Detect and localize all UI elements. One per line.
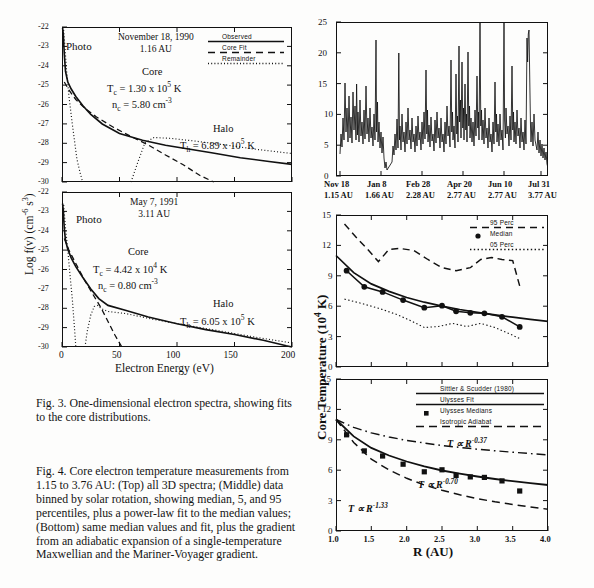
fig4-middle-ytick: 12 [322, 241, 331, 250]
fig3-top-halo-label: Halo [213, 122, 233, 135]
fig3-top-ytick: -24 [38, 62, 49, 70]
fig3-legend-label: Observed [222, 33, 252, 40]
fig3-top-core-density: nc = 5.80 cm-3 [112, 96, 172, 113]
fig4-bottom-legend-label: Ulysses Fit [440, 396, 474, 403]
fig3-top-ytick: -23 [38, 42, 49, 50]
fig3-top-panel: Log f(v) (cm-6 s3) [0, 0, 300, 200]
fig4-bottom-annotation-ulysses: T ∝ R-0.70 [418, 478, 458, 492]
fig3-legend-item: Remainder [208, 55, 288, 66]
fig4-top-ytick: 15 [318, 80, 327, 89]
fig4-middle-ytick: 15 [322, 211, 331, 220]
fig4-middle-p05-curve [345, 299, 520, 339]
fig4-middle-legend-label: Median [490, 230, 513, 237]
fig4-top-panel: 25 20 15 10 5 0 Nov 18 1.15 AU Jan 8 1.6… [300, 8, 594, 203]
fig4-top-xtick-date: Jan 8 [367, 180, 387, 189]
fig4-top-xtick-dist: 2.28 AU [406, 191, 435, 200]
fig4-top-xtick-dist: 3.77 AU [528, 191, 557, 200]
fig3-top-ytick: -27 [38, 120, 49, 128]
fig4-middle-ytick: 6 [328, 302, 333, 311]
fig4-bottom-legend: Sittler & Scudder (1980) Ulysses Fit Uly… [416, 385, 548, 429]
fig3-bottom-panel: -22 -23 -24 -25 -26 -27 -28 -29 -30 0 50… [0, 188, 300, 368]
fig3-legend-label: Remainder [222, 55, 256, 62]
fig4-middle-panel: 15 12 9 6 3 0 95 Perc Median [300, 210, 594, 370]
fig3-bottom-ytick: -25 [38, 246, 49, 254]
fig4-middle-legend-label: 95 Perc [490, 219, 514, 226]
fig3-bottom-ytick: -22 [38, 188, 49, 196]
fig3-legend-label: Core Fit [222, 44, 247, 51]
fig4-bottom-xtick: 4.0 [540, 535, 551, 544]
fig3-xtick: 50 [112, 351, 122, 361]
fig4-top-xtick-date: Feb 28 [406, 180, 430, 189]
fig3-xtick: 150 [224, 351, 238, 361]
fig4-middle-legend-item: 05 Perc [470, 241, 548, 252]
fig3-bottom-ytick: -28 [38, 304, 49, 312]
fig4-bottom-ytick: 15 [322, 375, 331, 384]
fig4-middle-median-line [347, 271, 520, 327]
fig4-bottom-ytick: 12 [322, 405, 331, 414]
fig4-middle-median-markers [344, 268, 523, 330]
fig3-top-date: November 18, 1990 [118, 32, 194, 44]
fig3-xtick: 100 [166, 351, 180, 361]
fig4-bottom-legend-item: Ulysses Fit [416, 396, 548, 407]
fig4-top-xtick-dist: 2.77 AU [447, 191, 476, 200]
fig4-bottom-ytick: 3 [328, 497, 333, 506]
fig4-middle-ytick: 3 [328, 333, 333, 342]
fig3-bottom-date-block: May 7, 1991 3.11 AU [130, 197, 178, 221]
fig4-caption: Fig. 4. Core electron temperature measur… [36, 465, 304, 562]
fig3-top-ytick: -29 [38, 159, 49, 167]
fig3-top-distance: 1.16 AU [118, 44, 194, 56]
fig4-top-timeseries [340, 22, 548, 170]
fig3-caption: Fig. 3. One-dimensional electron spectra… [36, 397, 294, 425]
fig4-bottom-ulyssesfit-curve [336, 420, 548, 486]
fig4-bottom-xtick: 3.5 [505, 535, 516, 544]
fig4-top-ytick: 20 [318, 49, 327, 58]
fig4-bottom-legend-label: Isotropic Adiabat [440, 418, 491, 425]
fig4-bottom-xtick: 3.0 [470, 535, 481, 544]
figure-page: Log f(v) (cm-6 s3) [0, 0, 594, 588]
fig4-middle-legend-label: 05 Perc [490, 241, 514, 248]
fig4-bottom-xtick: 2.5 [434, 535, 445, 544]
fig4-top-ytick: 5 [324, 141, 329, 150]
fig3-top-photo-label: Photo [66, 40, 92, 54]
fig4-top-xtick-date: Jul 31 [528, 180, 550, 189]
fig3-legend-item: Observed [208, 33, 288, 44]
fig3-xtick: 200 [281, 351, 295, 361]
fig4-top-xtick-date: Jun 10 [488, 180, 512, 189]
fig3-bottom-core-label: Core [128, 245, 148, 258]
fig3-top-core-label: Core [142, 65, 162, 78]
fig3-bottom-core-density: nc = 0.80 cm-3 [98, 277, 158, 294]
fig4-top-ytick: 10 [324, 110, 333, 119]
fig4-bottom-xtick: 2.0 [399, 535, 410, 544]
fig4-bottom-ytick: 9 [328, 436, 333, 445]
fig3-bottom-distance: 3.11 AU [130, 209, 178, 221]
fig3-top-date-block: November 18, 1990 1.16 AU [118, 32, 194, 56]
fig3-bottom-photo-label: Photo [76, 213, 102, 227]
fig4-bottom-legend-item: Isotropic Adiabat [416, 418, 548, 429]
fig3-xaxis-title: Electron Energy (eV) [115, 362, 214, 374]
fig4-top-xtick-date: Apr 20 [447, 180, 472, 189]
fig3-bottom-ytick: -30 [38, 343, 49, 351]
fig4-middle-ytick: 0 [328, 363, 333, 372]
fig3-top-halo-temp: Th = 6.89 x 105 K [180, 137, 255, 154]
fig3-top-ytick: -22 [38, 23, 49, 31]
fig3-top-ytick: -25 [38, 81, 49, 89]
fig4-xaxis-title: R (AU) [413, 545, 453, 559]
fig3-bottom-core-temp: Tc = 4.42 x 104 K [93, 261, 167, 278]
fig3-legend-item: Core Fit [208, 44, 288, 55]
fig4-bottom-ytick: 6 [328, 466, 333, 475]
fig3-xtick: 0 [59, 351, 64, 361]
fig3-bottom-ytick: -27 [38, 285, 49, 293]
fig4-top-xtick-date: Nov 18 [324, 180, 349, 189]
fig4-top-xtick-dist: 1.15 AU [324, 191, 353, 200]
fig4-middle-legend-item: 95 Perc [470, 219, 548, 230]
fig3-bottom-ytick: -23 [38, 207, 49, 215]
fig3-bottom-ytick: -26 [38, 266, 49, 274]
fig3-bottom-date: May 7, 1991 [130, 197, 178, 209]
fig3-bottom-halo-label: Halo [213, 297, 233, 310]
fig3-top-ytick: -30 [38, 178, 49, 186]
fig4-bottom-annotation-adiabat: T ∝ R-1.33 [348, 502, 388, 516]
fig4-bottom-annotation-sittler: T ∝ R-0.37 [447, 437, 487, 451]
fig4-bottom-adiabat-curve [336, 420, 548, 510]
fig4-middle-ytick: 9 [328, 272, 333, 281]
fig4-middle-legend-item: Median [470, 230, 548, 241]
